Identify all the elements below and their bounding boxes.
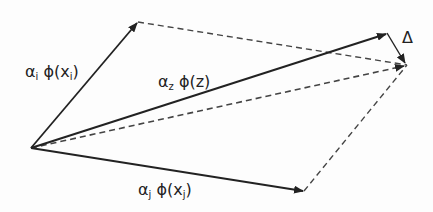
dashed-edge-top <box>138 22 407 65</box>
label-alpha-z: αz ϕ(z) <box>158 72 210 92</box>
diagram-canvas: αi ϕ(xi) αz ϕ(z) αj ϕ(xj) Δ <box>0 0 433 212</box>
label-delta: Δ <box>402 28 413 47</box>
dashed-sum-vector <box>31 66 404 148</box>
vector-alpha-i <box>31 23 137 148</box>
vector-diagram <box>0 0 433 212</box>
label-alpha-i: αi ϕ(xi) <box>25 62 79 82</box>
label-alpha-j: αj ϕ(xj) <box>138 180 192 200</box>
